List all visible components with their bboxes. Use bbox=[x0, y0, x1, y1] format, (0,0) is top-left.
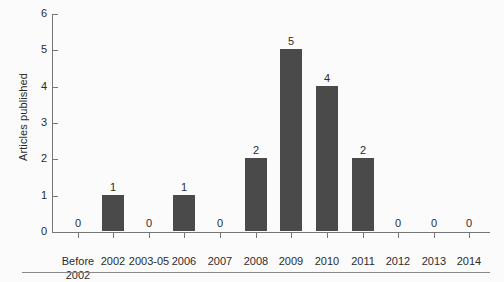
x-axis-tick-mark bbox=[220, 233, 221, 238]
y-axis-tick-label: 5 bbox=[41, 43, 47, 56]
y-axis-tick-mark bbox=[53, 123, 58, 124]
bar-chart-figure: Articles published 0123456 010102542000 … bbox=[0, 0, 504, 282]
bar-value-label: 2 bbox=[348, 144, 378, 156]
x-axis-tick-mark bbox=[291, 233, 292, 238]
bar bbox=[316, 86, 338, 231]
bar-value-label: 0 bbox=[419, 217, 449, 229]
bottom-divider bbox=[22, 272, 490, 273]
y-axis-tick: 2 bbox=[52, 159, 58, 160]
bar-value-label: 0 bbox=[383, 217, 413, 229]
bar-value-label: 5 bbox=[276, 35, 306, 47]
bar bbox=[102, 195, 124, 231]
bar-value-label: 2 bbox=[241, 144, 271, 156]
y-axis-tick: 4 bbox=[52, 87, 58, 88]
x-axis-tick-mark bbox=[113, 233, 114, 238]
y-axis-tick-label: 3 bbox=[41, 116, 47, 129]
x-axis-tick-mark bbox=[256, 233, 257, 238]
x-axis-tick-mark bbox=[78, 233, 79, 238]
bar-value-label: 0 bbox=[63, 217, 93, 229]
bar bbox=[173, 195, 195, 231]
y-axis-tick: 3 bbox=[52, 123, 58, 124]
bar bbox=[280, 49, 302, 231]
bar bbox=[245, 158, 267, 231]
x-axis-tick-mark bbox=[184, 233, 185, 238]
y-axis-tick-mark bbox=[53, 232, 58, 233]
y-axis-tick-mark bbox=[53, 159, 58, 160]
y-axis-tick-label: 4 bbox=[41, 80, 47, 93]
bar-value-label: 0 bbox=[134, 217, 164, 229]
y-axis-tick: 0 bbox=[52, 232, 58, 233]
x-axis-category-label: 2014 bbox=[442, 254, 496, 268]
x-axis-tick-mark bbox=[469, 233, 470, 238]
bar-value-label: 1 bbox=[169, 181, 199, 193]
bar bbox=[352, 158, 374, 231]
y-axis-tick-mark bbox=[53, 50, 58, 51]
bar-value-label: 0 bbox=[454, 217, 484, 229]
x-axis-tick-mark bbox=[149, 233, 150, 238]
plot-area: 0123456 010102542000 Before 200220022003… bbox=[52, 14, 490, 232]
y-axis-tick-label: 6 bbox=[41, 7, 47, 20]
y-axis-tick: 1 bbox=[52, 196, 58, 197]
x-axis-tick-mark bbox=[363, 233, 364, 238]
y-axis-title: Articles published bbox=[14, 0, 32, 240]
y-axis-tick-label: 0 bbox=[41, 225, 47, 238]
y-axis-tick-mark bbox=[53, 87, 58, 88]
x-axis-tick-mark bbox=[434, 233, 435, 238]
y-axis-tick-mark bbox=[53, 196, 58, 197]
x-axis-tick-mark bbox=[327, 233, 328, 238]
y-axis-tick-label: 2 bbox=[41, 152, 47, 165]
bar-value-label: 1 bbox=[98, 181, 128, 193]
bar-value-label: 0 bbox=[205, 217, 235, 229]
y-axis-tick: 5 bbox=[52, 50, 58, 51]
bar-value-label: 4 bbox=[312, 72, 342, 84]
y-axis-tick: 6 bbox=[52, 14, 58, 15]
x-axis-tick-mark bbox=[398, 233, 399, 238]
y-axis-tick-mark bbox=[53, 14, 58, 15]
x-axis-spine bbox=[52, 232, 490, 233]
y-axis-tick-label: 1 bbox=[41, 189, 47, 202]
